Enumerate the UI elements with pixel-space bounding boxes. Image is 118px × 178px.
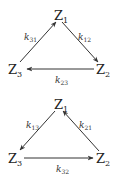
node-z2-top: Z2 <box>96 62 110 79</box>
node-z2-bottom: Z2 <box>96 151 110 168</box>
reaction-cycle-diagrams: Z1 Z3 Z2 k31 k12 k23 Z1 Z3 Z2 k13 k21 k3… <box>0 0 118 178</box>
node-z3-top: Z3 <box>8 62 22 79</box>
edge-z3-to-z1 <box>20 22 56 62</box>
label-k23: k23 <box>55 75 68 86</box>
diagram-bottom: Z1 Z3 Z2 k13 k21 k32 <box>8 97 110 175</box>
edge-z1-to-z2 <box>62 22 98 62</box>
label-k13: k13 <box>26 120 39 131</box>
edge-z2-to-z1 <box>63 111 99 151</box>
label-k31: k31 <box>24 32 37 43</box>
label-k12: k12 <box>78 32 91 43</box>
diagram-top: Z1 Z3 Z2 k31 k12 k23 <box>8 8 110 86</box>
node-z3-bottom: Z3 <box>8 151 22 168</box>
label-k21: k21 <box>79 120 92 131</box>
label-k32: k32 <box>56 164 69 175</box>
node-z1-bottom: Z1 <box>54 97 68 114</box>
